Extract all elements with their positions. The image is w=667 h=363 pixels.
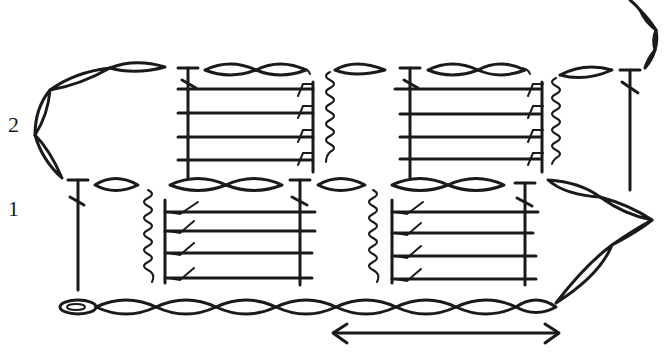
row1-block-1	[165, 200, 315, 283]
turning-chain-left	[35, 63, 165, 178]
row1-block-2	[392, 200, 538, 283]
continuation-chain	[630, 0, 657, 68]
repeat-arrow	[333, 324, 559, 343]
row2-block-2	[395, 82, 543, 172]
row2-block-1	[178, 82, 313, 172]
row2-spirals	[326, 72, 560, 164]
row1-spirals	[144, 190, 378, 282]
row1-tall-stitches	[68, 180, 535, 290]
crochet-chart	[0, 0, 667, 363]
foundation-chain	[60, 300, 556, 314]
row2-tall-stitches	[178, 68, 640, 190]
turning-chain-right	[548, 180, 652, 303]
